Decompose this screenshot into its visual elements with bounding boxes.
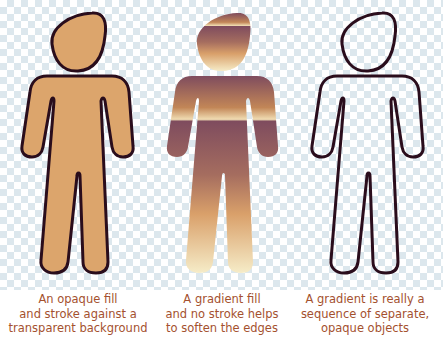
caption-line: to soften the edges [148,321,296,336]
caption-line: An opaque fill [4,292,152,307]
caption-line: and stroke against a [4,307,152,322]
caption-line: A gradient fill [148,292,296,307]
caption-line: transparent background [4,321,152,336]
caption-opaque: An opaque fill and stroke against a tran… [4,292,152,336]
opaque-figure [22,13,133,273]
caption-banded: A gradient is really a sequence of separ… [291,292,439,336]
caption-line: and no stroke helps [148,307,296,322]
caption-line: opaque objects [291,321,439,336]
gradient-figure [167,13,278,273]
figures-canvas [0,0,443,290]
caption-line: A gradient is really a [291,292,439,307]
caption-gradient: A gradient fill and no stroke helps to s… [148,292,296,336]
caption-line: sequence of separate, [291,307,439,322]
banded-figure [300,10,440,276]
